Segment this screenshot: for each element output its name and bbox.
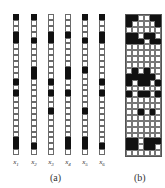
column-label-subscript: 1 [16, 162, 19, 167]
column-label-subscript: 2 [34, 162, 37, 167]
column-label: x5 [79, 158, 91, 167]
column-label-subscript: 6 [102, 162, 105, 167]
matrix-cell [155, 150, 161, 156]
column-label-subscript: 3 [51, 162, 54, 167]
column-label-subscript: 5 [85, 162, 88, 167]
caption-b: (b) [134, 172, 146, 183]
vector-cell [65, 149, 71, 155]
vector-cell [31, 149, 37, 155]
column-label-subscript: 4 [68, 162, 71, 167]
vector-cell [82, 149, 88, 155]
vector-cell [13, 149, 19, 155]
column-label: x4 [62, 158, 74, 167]
column-vector-x1 [13, 14, 19, 155]
column-vector-x4 [65, 14, 71, 155]
caption-a: (a) [50, 172, 61, 183]
column-label: x3 [45, 158, 57, 167]
vector-cell [48, 149, 54, 155]
panel-b-matrix-grid [125, 14, 162, 157]
column-vector-x3 [48, 14, 54, 155]
column-vector-x2 [31, 14, 37, 155]
column-vector-x5 [82, 14, 88, 155]
column-label: x6 [96, 158, 108, 167]
column-label: x1 [10, 158, 22, 167]
column-vector-x6 [99, 14, 105, 155]
column-label: x2 [28, 158, 40, 167]
vector-cell [99, 149, 105, 155]
